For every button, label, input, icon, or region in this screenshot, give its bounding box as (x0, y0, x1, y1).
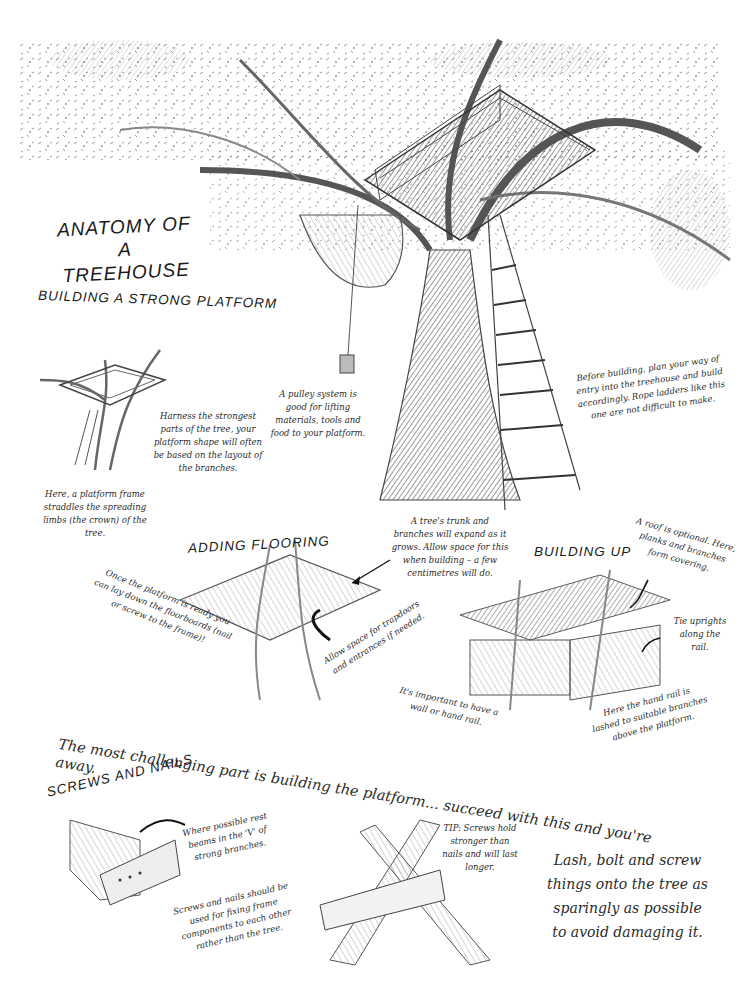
basket-drawing (300, 215, 403, 287)
page-title: Anatomy of a Treehouse (48, 211, 201, 288)
note-pulley: A pulley system is good for lifting mate… (268, 388, 368, 440)
note-platform-frame: Here, a platform frame straddles the spr… (40, 488, 150, 540)
note-tree-expansion: A tree's trunk and branches will expand … (390, 515, 510, 580)
heading-building-up: Building up (534, 544, 631, 559)
title-line-1: Anatomy of a (48, 211, 200, 265)
note-tip: TIP: Screws hold stronger than nails and… (440, 822, 520, 874)
building-up-sketch (460, 570, 670, 710)
screws-sketch (70, 820, 185, 905)
note-harness: Harness the strongest parts of the tree,… (148, 410, 268, 475)
platform-frame-sketch (40, 350, 165, 470)
note-lash-bolt-screw: Lash, bolt and screw things onto the tre… (545, 848, 710, 944)
note-tie-uprights: Tie uprights along the rail. (670, 615, 730, 654)
